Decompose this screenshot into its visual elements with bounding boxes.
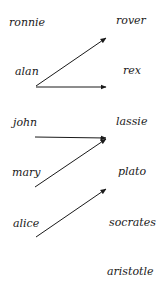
- arrow-icon-alan-to-rover: [36, 38, 106, 86]
- arrow-icon-john-to-lassie: [35, 137, 106, 138]
- arrow-icon-mary-to-lassie: [35, 139, 106, 187]
- arrows-layer: [0, 0, 161, 291]
- arrow-icon-alice-to-plato: [36, 189, 106, 237]
